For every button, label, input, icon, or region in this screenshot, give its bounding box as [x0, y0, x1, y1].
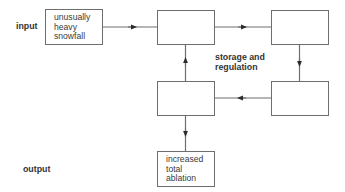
storage-regulation-line2: regulation: [215, 62, 265, 72]
bottom-right-box: [271, 81, 329, 116]
top-middle-box: [157, 10, 215, 45]
input-label: input: [16, 21, 38, 31]
storage-regulation-line1: storage and: [215, 52, 265, 62]
bottom-middle-box: [157, 81, 215, 116]
output-box-text: increased total ablation: [166, 155, 203, 184]
top-right-box: [271, 10, 329, 45]
output-box: increased total ablation: [157, 151, 215, 187]
output-line-3: ablation: [166, 174, 203, 184]
input-box: unusually heavy snowfall: [45, 9, 103, 45]
input-box-text: unusually heavy snowfall: [54, 13, 90, 42]
storage-regulation-label: storage and regulation: [215, 52, 265, 72]
output-label: output: [23, 164, 50, 174]
input-line-3: snowfall: [54, 32, 90, 42]
